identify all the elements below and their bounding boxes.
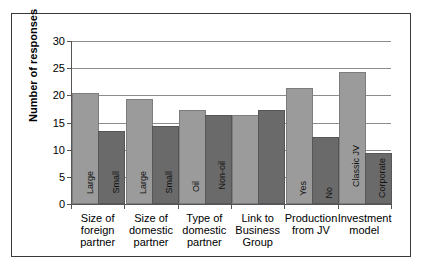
category-label-line: Investment [338,212,391,224]
y-axis-title: Number of responses [28,9,39,122]
bar-value-label: Yes [299,181,308,196]
category-label-line: Business [231,224,284,236]
category-label-line: domestic [124,224,177,236]
category-label-line: domestic [178,224,231,236]
x-tick-1 [124,204,125,209]
gridline-25 [71,68,391,69]
category-label-line: Type of [178,212,231,224]
bar-second-option-5[interactable]: Corporate [365,153,392,204]
category-label-line: partner [71,236,124,248]
y-tick-label-0: 0 [59,199,65,210]
bar-value-label: Large [86,171,95,194]
category-label-line: Size of [71,212,124,224]
bar-value-label: Classic JV [352,145,361,187]
bar-value-label: No [325,187,334,199]
bar-value-label: Small [112,171,121,194]
bar-first-option-2[interactable]: Oil [179,110,206,204]
y-tick-label-15: 15 [53,117,65,128]
plot-area: 051015202530 LargeSmallLargeSmallOilNon-… [71,41,391,204]
bar-second-option-4[interactable]: No [312,137,339,204]
bar-first-option-1[interactable]: Large [126,99,153,204]
bar-first-option-4[interactable]: Yes [286,88,313,204]
category-label-2: Type ofdomesticpartner [178,212,231,248]
y-tick-label-25: 25 [53,63,65,74]
category-label-line: Link to [231,212,284,224]
bar-value-label: Small [165,171,174,194]
category-label-1: Size ofdomesticpartner [124,212,177,248]
category-label-line: Size of [124,212,177,224]
category-label-line: Production [284,212,337,224]
y-tick-label-20: 20 [53,90,65,101]
category-label-5: Investmentmodel [338,212,391,236]
bar-value-label: Non-oil [218,161,227,190]
y-tick-label-30: 30 [53,36,65,47]
bar-value-label: Large [139,171,148,194]
bar-second-option-0[interactable]: Small [98,131,125,204]
category-label-line: from JV [284,224,337,236]
bar-second-option-3[interactable] [258,110,285,204]
bar-value-label: Oil [192,181,201,192]
bar-first-option-3[interactable] [232,115,259,204]
category-label-line: foreign [71,224,124,236]
bar-second-option-2[interactable]: Non-oil [205,115,232,204]
category-label-line: Group [231,236,284,248]
x-tick-5 [338,204,339,209]
bar-first-option-0[interactable]: Large [72,93,99,204]
category-label-0: Size offoreignpartner [71,212,124,248]
category-label-4: Productionfrom JV [284,212,337,236]
y-tick-30 [67,41,72,42]
category-label-line: model [338,224,391,236]
bar-second-option-1[interactable]: Small [152,126,179,204]
x-tick-6 [391,204,392,209]
chart-frame: Number of responses 051015202530 LargeSm… [11,13,411,257]
bar-first-option-5[interactable]: Classic JV [339,72,366,204]
x-tick-0 [71,204,72,209]
gridline-30 [71,41,391,42]
category-label-line: partner [124,236,177,248]
y-tick-label-5: 5 [59,171,65,182]
bar-value-label: Corporate [378,158,387,198]
x-tick-3 [231,204,232,209]
category-label-line: partner [178,236,231,248]
x-tick-4 [284,204,285,209]
x-tick-2 [178,204,179,209]
category-label-3: Link toBusinessGroup [231,212,284,248]
y-tick-label-10: 10 [53,144,65,155]
y-tick-25 [67,68,72,69]
